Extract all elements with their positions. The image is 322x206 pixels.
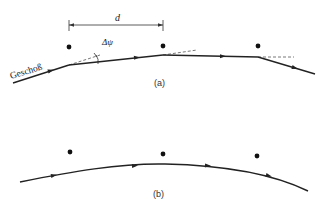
smooth-trajectory	[20, 164, 308, 191]
panel-a: d Δψ G	[9, 12, 315, 88]
scattering-center-dot	[161, 152, 166, 157]
scattering-center-dot	[68, 150, 73, 155]
panel-a-label: (a)	[154, 78, 165, 88]
diagram-canvas: d Δψ G	[0, 0, 322, 206]
panel-b: (b)	[20, 150, 308, 199]
scattering-center-dot	[255, 154, 260, 159]
scattering-center-dot	[161, 44, 166, 49]
spacing-dimension: d	[69, 12, 163, 31]
projectile-label: Geschoß	[9, 62, 44, 81]
angle-label: Δψ	[101, 37, 113, 47]
scattering-center-dot	[67, 45, 72, 50]
scattering-center-dot	[256, 44, 261, 49]
panel-b-label: (b)	[153, 189, 164, 199]
spacing-label: d	[115, 12, 121, 23]
